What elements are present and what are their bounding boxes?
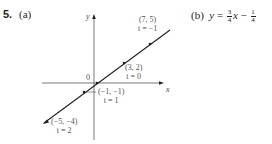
point-label-neg1-neg1: (−1, −1) t = 1: [98, 87, 124, 105]
origin-label: 0: [86, 73, 90, 82]
point-label-neg5-neg4: (−5, −4) t = 2: [51, 117, 77, 135]
point-neg1-neg1: [83, 91, 86, 94]
x-axis-arrow-icon: [159, 81, 164, 85]
y-axis-label: y: [86, 12, 90, 21]
point-label-7-5: (7, 5) t = −1: [138, 15, 157, 33]
x-axis-label: x: [166, 85, 170, 94]
point-origin-crossing: [96, 82, 99, 85]
point-label-3-2: (3, 2) t = 0: [125, 63, 142, 81]
point-7-5: [149, 43, 152, 46]
y-axis-arrow-icon: [92, 14, 96, 19]
